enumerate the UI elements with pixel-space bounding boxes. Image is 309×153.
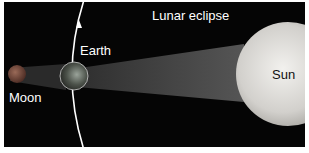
lunar-eclipse-diagram: Lunar eclipse Earth Moon Sun — [4, 2, 305, 147]
moon — [8, 65, 26, 83]
diagram-graphics — [4, 2, 305, 147]
sun-label: Sun — [272, 67, 295, 82]
diagram-title: Lunar eclipse — [152, 8, 229, 23]
moon-label: Moon — [9, 90, 42, 105]
earth-label: Earth — [80, 43, 111, 58]
